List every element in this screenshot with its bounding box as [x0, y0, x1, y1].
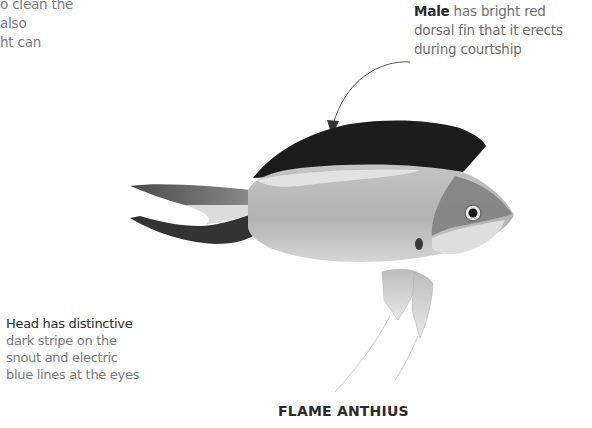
- species-title: FLAME ANTHIUS: [278, 403, 409, 419]
- fish-illustration: [0, 0, 592, 428]
- eye: [465, 205, 481, 221]
- pelvic-fins: [335, 269, 433, 392]
- tail-fin: [130, 184, 256, 244]
